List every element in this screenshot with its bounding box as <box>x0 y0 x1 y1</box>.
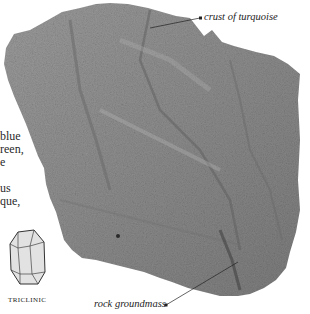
label-rock-groundmass: rock groundmass <box>94 298 166 309</box>
triclinic-crystal-icon <box>8 228 48 288</box>
crystal-system-caption: TRICLINIC <box>8 296 46 304</box>
body-text-line: que, <box>0 195 20 208</box>
body-text-line: e <box>0 156 5 169</box>
label-crust-of-turquoise: crust of turquoise <box>204 11 278 22</box>
